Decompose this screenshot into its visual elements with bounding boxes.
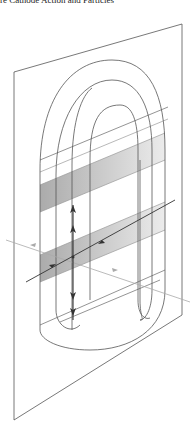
diagram	[0, 0, 196, 437]
diagonal-arrow-line	[26, 200, 175, 282]
outer-loop	[40, 60, 165, 350]
inner-loop	[90, 105, 150, 318]
